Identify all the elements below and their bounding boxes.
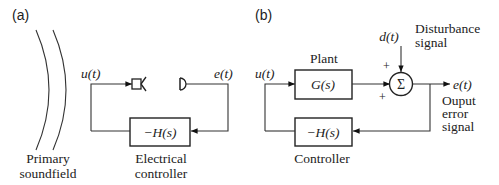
wire-e-to-controller	[186, 84, 228, 131]
electrical-controller-label-line-1: Electrical	[135, 151, 187, 166]
error-label-e: e(t)	[214, 66, 233, 81]
plant-label: Plant	[310, 51, 338, 66]
controller-label-b: Controller	[294, 151, 350, 166]
controller-block-a-label: −H(s)	[143, 125, 177, 140]
output-desc-line-3: signal	[442, 119, 474, 134]
soundfield-wave-2	[53, 30, 66, 150]
loudspeaker-icon	[132, 77, 146, 91]
disturbance-label-line-1: Disturbance	[415, 21, 480, 36]
controller-block-b-label: −H(s)	[306, 125, 340, 140]
sum-symbol: Σ	[397, 77, 405, 92]
disturbance-symbol: d(t)	[379, 29, 399, 44]
wire-u-to-speaker	[91, 84, 132, 131]
panel-a: (a) u(t) e(t) −H(s) Primary soundfield E…	[12, 7, 233, 181]
panel-a-tag: (a)	[12, 7, 29, 23]
sum-sign-top: +	[383, 59, 390, 73]
input-label-u-b: u(t)	[255, 66, 275, 81]
panel-b: (b) u(t) Plant G(s) d(t) Disturbance sig…	[255, 7, 480, 166]
input-label-u: u(t)	[81, 66, 101, 81]
panel-b-tag: (b)	[255, 7, 272, 23]
plant-block-label: G(s)	[311, 77, 335, 92]
diagram-canvas: (a) u(t) e(t) −H(s) Primary soundfield E…	[0, 0, 499, 185]
output-label-e: e(t)	[453, 77, 472, 92]
soundfield-label-line-2: soundfield	[20, 166, 77, 181]
wire-u-to-plant	[265, 84, 295, 131]
soundfield-label-line-1: Primary	[26, 151, 70, 166]
disturbance-label-line-2: signal	[415, 35, 447, 50]
electrical-controller-label-line-2: controller	[135, 166, 188, 181]
sum-sign-left: +	[379, 90, 386, 104]
soundfield-wave-1	[36, 30, 49, 150]
microphone-icon	[180, 78, 186, 90]
